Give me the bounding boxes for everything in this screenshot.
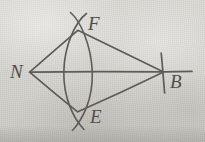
- segment-N-B-baseline: [30, 71, 193, 72]
- figure-canvas: N F E B: [0, 0, 205, 142]
- point-label-E: E: [90, 107, 102, 126]
- point-label-F: F: [88, 14, 100, 33]
- point-label-N: N: [10, 62, 23, 81]
- point-label-B: B: [170, 72, 182, 91]
- segment-F-B: [78, 31, 162, 72]
- segment-N-E: [30, 73, 77, 112]
